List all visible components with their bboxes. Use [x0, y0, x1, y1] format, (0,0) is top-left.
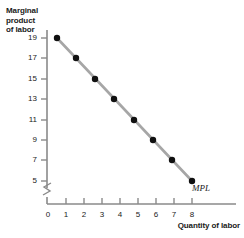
data-point-2	[92, 76, 98, 82]
data-point-0	[54, 35, 60, 41]
data-point-7	[189, 178, 195, 184]
x-tick-marks	[66, 198, 192, 204]
data-point-3	[111, 96, 117, 102]
y-tick-marks	[41, 38, 47, 181]
plot-area	[0, 0, 244, 238]
data-point-1	[73, 55, 79, 61]
y-axis-break-icon	[43, 183, 51, 195]
data-point-4	[131, 117, 137, 123]
data-point-5	[150, 137, 156, 143]
chart-figure: Marginal product of labor Quantity of la…	[0, 0, 244, 238]
data-point-6	[169, 157, 175, 163]
